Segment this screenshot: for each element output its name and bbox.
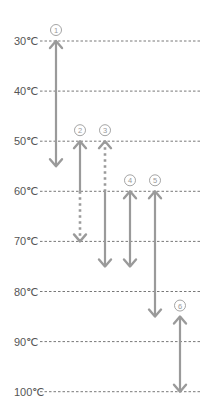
temperature-range-diagram: 30℃40℃50℃60℃70℃80℃90℃100℃123456 [0, 0, 213, 411]
range-label: 4 [128, 176, 132, 185]
tick-label: 80℃ [14, 286, 38, 298]
range-label: 1 [54, 26, 58, 35]
tick-label: 40℃ [14, 85, 38, 97]
tick-label: 30℃ [14, 35, 38, 47]
tick-label: 60℃ [14, 185, 38, 197]
range-label: 2 [78, 126, 82, 135]
range-label: 6 [178, 302, 182, 311]
tick-label: 50℃ [14, 135, 38, 147]
range-label: 3 [103, 126, 107, 135]
tick-label: 70℃ [14, 235, 38, 247]
tick-label: 100℃ [14, 386, 44, 398]
arrow-up-icon [99, 141, 111, 148]
range-label: 5 [153, 176, 157, 185]
tick-label: 90℃ [14, 336, 38, 348]
